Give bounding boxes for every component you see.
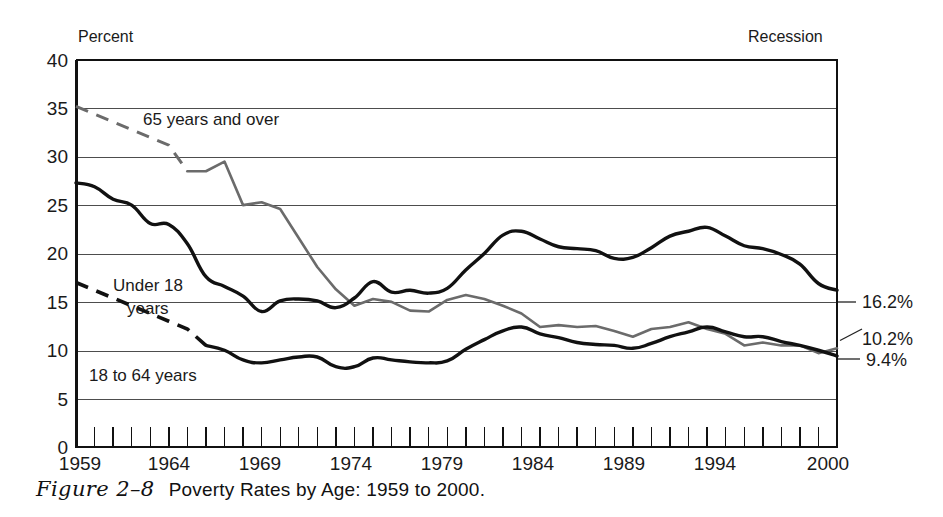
- x-tick-1959: 1959: [59, 453, 101, 474]
- series-line-under-18: [76, 183, 837, 312]
- x-tick-1979: 1979: [421, 453, 463, 474]
- y-tick-35: 35: [47, 98, 68, 119]
- right-end-labels: 16.2% 10.2% 9.4%: [838, 292, 913, 370]
- series-line-65-and-over: [187, 162, 837, 354]
- series-line-18-to-64: [206, 327, 837, 368]
- figure-number: Figure 2–8: [36, 477, 155, 501]
- y-tick-40: 40: [47, 50, 68, 71]
- series-annotation-18-to-64: 18 to 64 years: [89, 366, 197, 385]
- recession-legend-label: Recession: [748, 28, 823, 45]
- end-label-65-and-over: 10.2%: [862, 329, 913, 349]
- end-leader-10-2: [840, 329, 862, 341]
- x-tick-1994: 1994: [694, 453, 737, 474]
- series-layer: [76, 106, 837, 368]
- figure-title: Poverty Rates by Age: 1959 to 2000.: [169, 479, 485, 501]
- y-axis-title: Percent: [78, 28, 134, 45]
- end-label-18-to-64: 9.4%: [866, 350, 907, 370]
- x-tick-1984: 1984: [512, 453, 555, 474]
- y-tick-25: 25: [47, 195, 68, 216]
- y-tick-5: 5: [57, 389, 68, 410]
- x-axis-tickmarks: [95, 427, 819, 447]
- poverty-rates-line-chart: Percent Recession 40 35 30 25 20 1: [0, 0, 943, 480]
- figure-container: Percent Recession 40 35 30 25 20 1: [0, 0, 943, 517]
- series-annotation-65-and-over: 65 years and over: [143, 110, 279, 129]
- y-tick-10: 10: [47, 340, 68, 361]
- x-tick-2000: 2000: [807, 453, 849, 474]
- end-label-under-18: 16.2%: [862, 292, 913, 312]
- series-annotation-under-18-line2: years: [127, 299, 169, 318]
- x-tick-1989: 1989: [603, 453, 645, 474]
- y-tick-20: 20: [47, 243, 68, 264]
- y-tick-30: 30: [47, 146, 68, 167]
- y-axis-tick-labels: 40 35 30 25 20 15 10 5 0: [47, 50, 68, 458]
- x-tick-1964: 1964: [148, 453, 191, 474]
- series-annotation-under-18-line1: Under 18: [113, 276, 183, 295]
- x-tick-1969: 1969: [239, 453, 281, 474]
- y-tick-15: 15: [47, 292, 68, 313]
- x-axis-tick-labels: 1959 1964 1969 1974 1979 1984 1989 1994 …: [59, 453, 849, 474]
- figure-caption: Figure 2–8 Poverty Rates by Age: 1959 to…: [36, 477, 936, 513]
- x-tick-1974: 1974: [330, 453, 373, 474]
